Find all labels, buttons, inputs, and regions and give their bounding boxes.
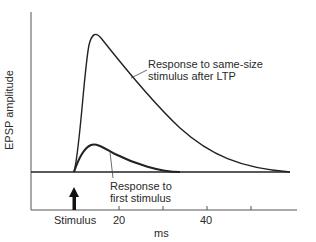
first-annotation-line2: first stimulus [110, 192, 171, 204]
stimulus-arrow-icon [69, 187, 79, 210]
stimulus-label: Stimulus [54, 214, 96, 226]
first-annotation-line1: Response to [110, 180, 172, 192]
epsp-chart [0, 0, 316, 242]
first-leader-line [110, 152, 113, 178]
ltp-annotation-line2: stimulus after LTP [148, 70, 236, 82]
y-axis-label: EPSP amplitude [3, 70, 15, 150]
ltp-response-curve [74, 34, 290, 172]
ltp-annotation-line1: Response to same-size [148, 58, 263, 70]
x-tick-label-40: 40 [200, 214, 212, 226]
x-axis-label: ms [154, 227, 169, 239]
ltp-leader-line [131, 70, 147, 78]
x-tick-label-20: 20 [113, 214, 125, 226]
first-response-curve [74, 145, 180, 172]
